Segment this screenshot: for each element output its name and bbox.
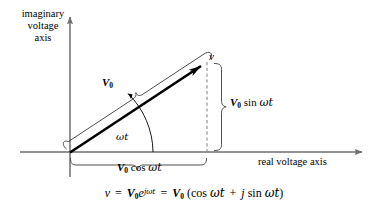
real-axis-label: real voltage axis	[258, 156, 327, 168]
equation-rhs1-var: V	[127, 186, 135, 200]
angle-label: ωt	[116, 131, 128, 142]
angle-symbol: ωt	[116, 131, 128, 142]
equation-cos-arg: ωt	[210, 186, 225, 200]
imaginary-component-fn: sin	[244, 96, 257, 108]
equation-rhs1-exponent: jωt	[144, 187, 155, 196]
real-component-label: V0 cos ωt	[117, 161, 162, 175]
phasor-tip-label: v	[209, 50, 214, 62]
equation-equals-1: =	[115, 186, 122, 200]
imaginary-component-brace	[214, 64, 226, 151]
phasor-vector	[70, 66, 201, 153]
imaginary-component-label: V0 sin ωt	[230, 96, 273, 110]
magnitude-subscript: 0	[109, 81, 113, 90]
equation-cos: cos	[191, 186, 207, 200]
angle-arc	[128, 94, 153, 153]
imaginary-component-arg: ωt	[259, 96, 272, 109]
equation-sin: sin	[248, 186, 262, 200]
imaginary-axis-label-line1: imaginary	[4, 8, 82, 20]
magnitude-label: V0	[102, 76, 113, 90]
imaginary-axis-label-line2: voltage	[4, 20, 82, 32]
equation-sin-arg: ωt	[265, 186, 280, 200]
real-component-fn: cos	[131, 161, 146, 173]
real-component-arg: ωt	[148, 161, 161, 174]
imaginary-axis-label: imaginary voltage axis	[4, 8, 82, 43]
phasor-diagram-figure: imaginary voltage axis real voltage axis…	[0, 0, 388, 218]
imaginary-axis-label-line3: axis	[4, 32, 82, 44]
equation-caption: v=V0ejωt=V0 (cos ωt+j sin ωt)	[0, 187, 388, 201]
equation-rhs2-var: V	[172, 186, 180, 200]
equation-close-paren: )	[279, 186, 283, 200]
phasor-tip-symbol: v	[209, 50, 214, 62]
magnitude-brace	[63, 52, 211, 149]
